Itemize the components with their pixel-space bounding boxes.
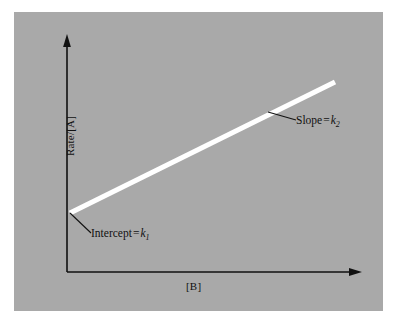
slope-annotation-text: Slope	[296, 114, 322, 126]
intercept-annotation: Intercept=k1	[91, 227, 149, 242]
intercept-leader-line	[70, 213, 91, 233]
intercept-annotation-subscript: 1	[145, 233, 149, 242]
slope-annotation: Slope=k2	[296, 114, 340, 129]
intercept-annotation-text: Intercept	[91, 227, 132, 239]
y-axis-label: Rate/[A]	[62, 104, 78, 168]
slope-annotation-equals: =	[322, 114, 331, 126]
x-axis-label: [B]	[186, 280, 201, 292]
figure-root: Rate/[A] [B] Slope=k2 Intercept=k1	[0, 0, 398, 329]
slope-annotation-subscript: 2	[336, 120, 340, 129]
data-line	[70, 82, 335, 213]
x-axis-arrow-icon	[349, 268, 362, 276]
slope-leader-line	[268, 112, 296, 120]
y-axis-arrow-icon	[63, 34, 71, 47]
